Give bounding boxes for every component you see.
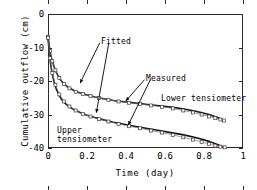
x-tick-3 bbox=[165, 0, 166, 4]
annotation-upper-line2: tensiometer bbox=[57, 135, 112, 144]
x-tick-5 bbox=[243, 0, 244, 4]
x-tick-1 bbox=[87, 186, 88, 190]
x-tick-5 bbox=[243, 186, 244, 190]
y-tick-0 bbox=[48, 14, 52, 15]
x-tick-2 bbox=[126, 186, 127, 190]
y-tick-1 bbox=[48, 48, 52, 49]
x-tick-label-5: 1 bbox=[240, 151, 245, 161]
x-tick-3 bbox=[165, 186, 166, 190]
y-tick-3 bbox=[239, 115, 243, 116]
x-tick-label-1: 0.2 bbox=[79, 151, 95, 161]
y-tick-4 bbox=[48, 148, 52, 149]
annotation-upper-tensiometer: Upper tensiometer bbox=[57, 126, 112, 144]
annotation-fitted: Fitted bbox=[101, 37, 131, 46]
x-tick-label-0: 0 bbox=[45, 151, 50, 161]
x-axis-label: Time (day) bbox=[115, 168, 174, 178]
x-tick-label-2: 0.4 bbox=[118, 151, 134, 161]
x-tick-2 bbox=[126, 0, 127, 4]
y-tick-3 bbox=[48, 115, 52, 116]
x-tick-4 bbox=[204, 186, 205, 190]
x-tick-1 bbox=[87, 0, 88, 4]
y-tick-4 bbox=[239, 148, 243, 149]
figure-container: 00.20.40.60.810-10-20-30-40 Time (day) C… bbox=[0, 0, 257, 190]
annotation-upper-line1: Upper bbox=[57, 126, 112, 135]
x-tick-0 bbox=[48, 0, 49, 4]
y-tick-1 bbox=[239, 48, 243, 49]
y-tick-2 bbox=[48, 81, 52, 82]
annotation-measured: Measured bbox=[146, 74, 186, 83]
y-axis-label: Cumulative outflow (cm) bbox=[20, 11, 30, 151]
y-tick-2 bbox=[239, 81, 243, 82]
x-tick-4 bbox=[204, 0, 205, 4]
x-tick-label-4: 0.8 bbox=[196, 151, 212, 161]
x-tick-0 bbox=[48, 186, 49, 190]
x-tick-label-3: 0.6 bbox=[157, 151, 173, 161]
y-tick-0 bbox=[239, 14, 243, 15]
annotation-lower-tensiometer: Lower tensiometer bbox=[161, 94, 246, 103]
